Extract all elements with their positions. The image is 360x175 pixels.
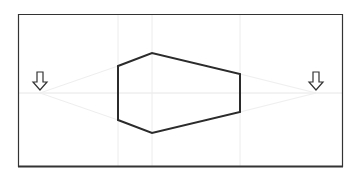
right-vanishing-point[interactable] <box>309 72 323 90</box>
frame <box>18 14 343 167</box>
left-vanishing-point[interactable] <box>33 72 47 90</box>
down-arrow-icon <box>33 72 47 90</box>
guide-lines <box>19 15 342 166</box>
perspective-diagram <box>0 0 360 175</box>
down-arrow-icon <box>309 72 323 90</box>
